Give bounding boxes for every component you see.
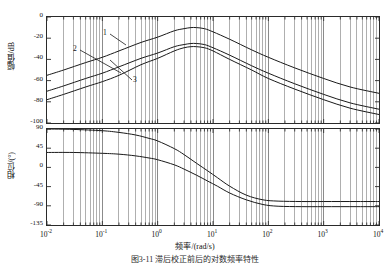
ytick-label: -90 (34, 201, 43, 208)
ytick-label: 45 (36, 143, 43, 150)
phase-axis-title: 相位/(°) (6, 152, 17, 179)
magnitude-plot (46, 16, 380, 124)
ytick-label: 0 (40, 162, 44, 169)
ytick-label: -80 (34, 97, 43, 104)
top-faint-text (28, 0, 368, 9)
xtick-label: 103 (318, 228, 328, 239)
curve-label-2: 2 (73, 44, 77, 53)
ytick-label: 90 (36, 124, 43, 131)
xtick-label: 10-2 (40, 228, 52, 239)
ytick-label: -45 (34, 182, 43, 189)
xtick-label: 100 (152, 228, 162, 239)
magnitude-plot-canvas (47, 17, 379, 123)
ytick-label: -135 (30, 220, 43, 227)
figure-root: 幅值/dB 0-20-40-60-80-100 1 2 3 相位/(°) 904… (0, 0, 390, 265)
curve-label-1: 1 (103, 28, 107, 37)
xtick-label: 104 (373, 228, 383, 239)
x-axis-title: 频率/(rad/s) (175, 240, 214, 251)
figure-caption: 图3-11 滞后校正前后的对数频率特性 (131, 253, 259, 264)
phase-plot-canvas (47, 129, 379, 225)
ytick-label: -20 (34, 33, 43, 40)
ytick-label: -40 (34, 54, 43, 61)
xtick-label: 101 (207, 228, 217, 239)
ytick-label: 0 (40, 12, 44, 19)
phase-plot (46, 128, 380, 226)
xtick-label: 102 (262, 228, 272, 239)
magnitude-axis-title: 幅值/dB (6, 42, 17, 70)
curve-label-3: 3 (133, 75, 137, 84)
ytick-label: -60 (34, 76, 43, 83)
xtick-label: 10-1 (95, 228, 107, 239)
